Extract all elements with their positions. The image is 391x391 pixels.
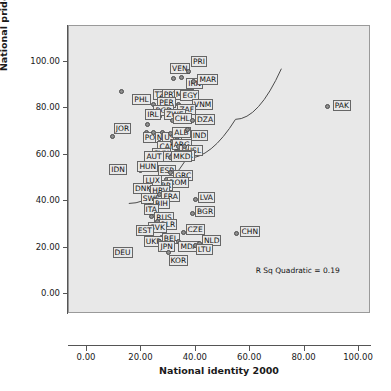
y-tick-label: 20.00 xyxy=(14,242,60,252)
x-tick-label: 0.00 xyxy=(61,352,111,362)
x-axis-line xyxy=(68,345,371,346)
data-point-label: KOR xyxy=(169,255,189,266)
data-point-label: DEU xyxy=(113,247,133,258)
x-tick-mark xyxy=(249,346,250,351)
data-point-label: EST xyxy=(136,225,154,236)
data-point-label: CHN xyxy=(240,226,261,237)
x-axis-title: National identity 2000 xyxy=(68,365,370,376)
x-tick-mark xyxy=(140,346,141,351)
data-point-label: BGR xyxy=(195,206,215,217)
data-point-label: PAK xyxy=(333,100,351,111)
data-point-label: CHL xyxy=(173,113,192,124)
data-point-label: HUN xyxy=(137,161,158,172)
data-point[interactable] xyxy=(145,122,150,127)
data-point-label: MKD xyxy=(171,151,192,162)
x-tick-label: 40.00 xyxy=(170,352,220,362)
y-tick-label: 100.00 xyxy=(14,56,60,66)
data-point-label: LTU xyxy=(196,244,213,255)
x-tick-mark xyxy=(86,346,87,351)
data-point-label: LVA xyxy=(198,192,215,203)
y-tick-label: 80.00 xyxy=(14,102,60,112)
data-point-label: MAR xyxy=(197,74,218,85)
scatter-chart: National pride 2000 National identity 20… xyxy=(0,0,391,391)
data-point-label: IDN xyxy=(109,164,127,175)
r-squared-annotation: R Sq Quadratic = 0.19 xyxy=(256,266,340,275)
x-tick-mark xyxy=(195,346,196,351)
data-point-label: PRI xyxy=(191,56,207,67)
x-tick-mark xyxy=(304,346,305,351)
data-point[interactable] xyxy=(234,231,239,236)
data-point[interactable] xyxy=(325,104,330,109)
x-tick-label: 20.00 xyxy=(115,352,165,362)
x-tick-label: 80.00 xyxy=(279,352,329,362)
data-point-label: CZE xyxy=(186,224,205,235)
y-axis-title: National pride 2000 xyxy=(0,0,9,118)
x-tick-label: 60.00 xyxy=(224,352,274,362)
plot-area: PHLVENPRIIRNMARTZAPRTMEXEGYPAKPERVNMBGDZ… xyxy=(68,25,370,313)
y-tick-label: 0.00 xyxy=(14,288,60,298)
data-point-label: PHL xyxy=(132,94,150,105)
data-point[interactable] xyxy=(182,144,187,149)
data-point-label: IND xyxy=(191,130,209,141)
y-tick-label: 40.00 xyxy=(14,195,60,205)
data-point-label: IRL xyxy=(145,109,161,120)
data-point-label: JOR xyxy=(114,123,131,134)
y-tick-label: 60.00 xyxy=(14,149,60,159)
data-point-label: DZA xyxy=(195,114,215,125)
x-tick-label: 100.00 xyxy=(333,352,383,362)
x-tick-mark xyxy=(358,346,359,351)
